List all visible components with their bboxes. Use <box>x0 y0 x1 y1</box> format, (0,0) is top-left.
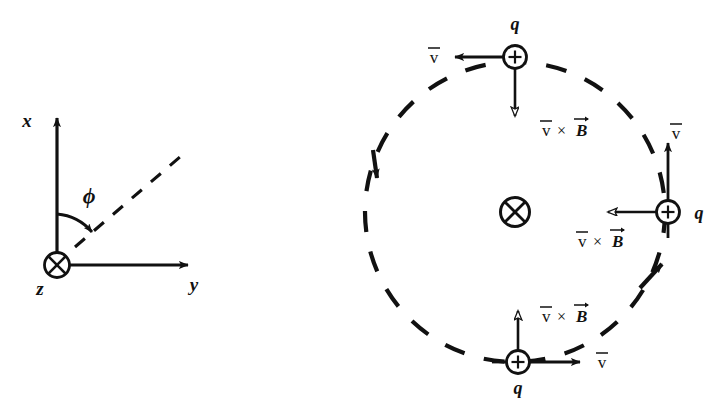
z-axis-label: z <box>35 278 44 299</box>
charge-bottom-velocity-label-text: v <box>598 353 607 372</box>
charge-top-force-label-times: × <box>557 122 566 139</box>
charge-bottom-group: q v v × B <box>492 303 608 399</box>
charge-top-marker <box>504 46 527 69</box>
charge-bottom-marker <box>507 351 530 374</box>
charge-right-q-label: q <box>695 203 704 223</box>
phi-angle-arc-arrow <box>57 214 92 232</box>
y-axis-label: y <box>188 274 199 295</box>
coordinate-axes-panel: x y z ϕ <box>21 110 199 299</box>
charge-bottom-q-label: q <box>514 378 523 398</box>
z-axis-circle-cross-icon <box>45 253 70 278</box>
charge-bottom-velocity-label: v <box>596 353 608 372</box>
charge-right-marker <box>657 201 680 224</box>
magnetic-field-into-page-icon <box>501 198 530 227</box>
physics-figure: x y z ϕ <box>0 0 725 418</box>
charge-right-group: q v v × B <box>576 124 704 251</box>
charge-top-group: q v v × B <box>428 14 589 140</box>
charge-right-force-label-B: B <box>611 232 623 251</box>
charge-right-velocity-label-text: v <box>672 124 681 143</box>
charge-right-force-label: v × B <box>576 228 625 252</box>
charge-top-velocity-label-text: v <box>430 48 439 67</box>
charge-right-velocity-label: v <box>670 124 682 143</box>
charge-right-force-label-v: v <box>578 232 587 251</box>
charge-top-force-label-v: v <box>542 121 551 140</box>
circular-motion-panel: q v v × B <box>365 14 704 398</box>
x-axis-label: x <box>21 110 32 131</box>
charge-bottom-force-label-B: B <box>575 307 587 326</box>
charge-bottom-force-label-times: × <box>557 308 566 325</box>
charge-top-force-label-B: B <box>575 121 587 140</box>
phi-angle-label: ϕ <box>83 183 96 208</box>
charge-top-force-label: v × B <box>540 117 589 141</box>
charge-bottom-force-label: v × B <box>540 303 589 327</box>
figure-canvas: x y z ϕ <box>0 0 725 418</box>
charge-right-force-label-times: × <box>593 233 602 250</box>
charge-top-velocity-label: v <box>428 48 440 67</box>
charge-bottom-force-label-v: v <box>542 307 551 326</box>
orbit-direction-arrow-lower-right <box>640 264 662 288</box>
charge-top-q-label: q <box>511 14 520 34</box>
orbit-direction-arrow-left <box>373 150 377 178</box>
